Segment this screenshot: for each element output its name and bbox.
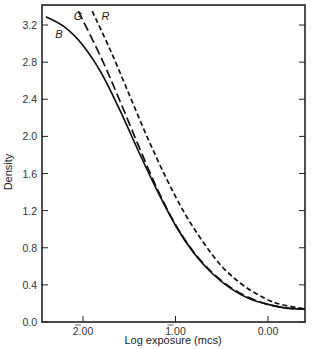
series-b-curve: [46, 17, 305, 309]
y-tick-label: 0.0: [22, 316, 37, 328]
y-tick-label: 1.2: [22, 205, 37, 217]
plot-frame: [42, 5, 305, 322]
curve-label-b: B: [55, 28, 62, 40]
x-axis-label: Log exposure (mcs): [124, 334, 221, 346]
data-series: [46, 11, 305, 309]
curve-label-r: R: [102, 10, 110, 22]
density-curve-chart: 0.00.40.81.21.62.02.42.83.2 2.001.000.00…: [0, 0, 312, 349]
y-axis-label: Density: [2, 153, 14, 190]
y-tick-label: 2.0: [22, 130, 37, 142]
y-tick-label: 3.2: [22, 19, 37, 31]
x-tick-label: 0.00: [258, 325, 279, 337]
y-tick-label: 0.4: [22, 279, 37, 291]
y-tick-label: 2.8: [22, 56, 37, 68]
series-r-curve: [92, 11, 305, 309]
x-tick-label: 2.00: [73, 325, 94, 337]
y-tick-label: 0.8: [22, 242, 37, 254]
y-tick-label: 2.4: [22, 93, 37, 105]
curve-label-g: G: [74, 10, 83, 22]
y-tick-label: 1.6: [22, 168, 37, 180]
